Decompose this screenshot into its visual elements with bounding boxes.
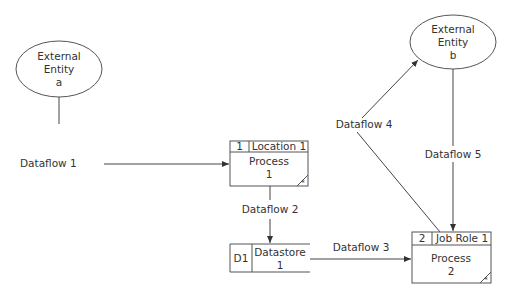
external-entity-b[interactable]: External Entity b	[410, 15, 496, 69]
entity-a-label-3: a	[56, 76, 62, 88]
process-1-marker: *	[301, 179, 305, 187]
dataflow-3-label: Dataflow 3	[333, 241, 390, 253]
dataflow-2[interactable]: Dataflow 2	[242, 186, 299, 243]
dataflow-3[interactable]: Dataflow 3	[310, 241, 411, 259]
dataflow-1-label: Dataflow 1	[20, 157, 77, 169]
process-1-location: Location 1	[252, 140, 306, 152]
dataflow-4-label: Dataflow 4	[336, 118, 393, 130]
dfd-diagram: External Entity a External Entity b Data…	[0, 0, 512, 297]
entity-b-label-1: External	[431, 23, 475, 35]
entity-b-label-2: Entity	[438, 36, 469, 48]
dataflow-1[interactable]: Dataflow 1	[20, 97, 229, 169]
datastore-d1[interactable]: D1 Datastore 1	[230, 244, 310, 272]
process-1[interactable]: 1 Location 1 Process 1 *	[230, 140, 308, 187]
dataflow-2-label: Dataflow 2	[242, 203, 299, 215]
process-1-id: 1	[236, 140, 243, 152]
dataflow-5[interactable]: Dataflow 5	[425, 69, 482, 231]
entity-a-label-1: External	[37, 50, 81, 62]
process-1-name: Process	[249, 155, 289, 167]
dataflow-5-label: Dataflow 5	[425, 148, 482, 160]
external-entity-a[interactable]: External Entity a	[16, 41, 102, 97]
process-2-marker: *	[484, 276, 488, 284]
process-2[interactable]: 2 Job Role 1 Process 2 *	[412, 232, 491, 284]
dataflow-4[interactable]: Dataflow 4	[336, 60, 440, 232]
entity-a-label-2: Entity	[44, 63, 75, 75]
process-2-id: 2	[419, 232, 426, 244]
datastore-id: D1	[234, 252, 249, 264]
process-2-number: 2	[448, 265, 455, 277]
datastore-number: 1	[277, 259, 284, 271]
datastore-name: Datastore	[254, 246, 306, 258]
process-2-location: Job Role 1	[435, 232, 488, 244]
process-2-name: Process	[431, 252, 471, 264]
entity-b-label-3: b	[450, 49, 457, 61]
process-1-number: 1	[266, 168, 273, 180]
